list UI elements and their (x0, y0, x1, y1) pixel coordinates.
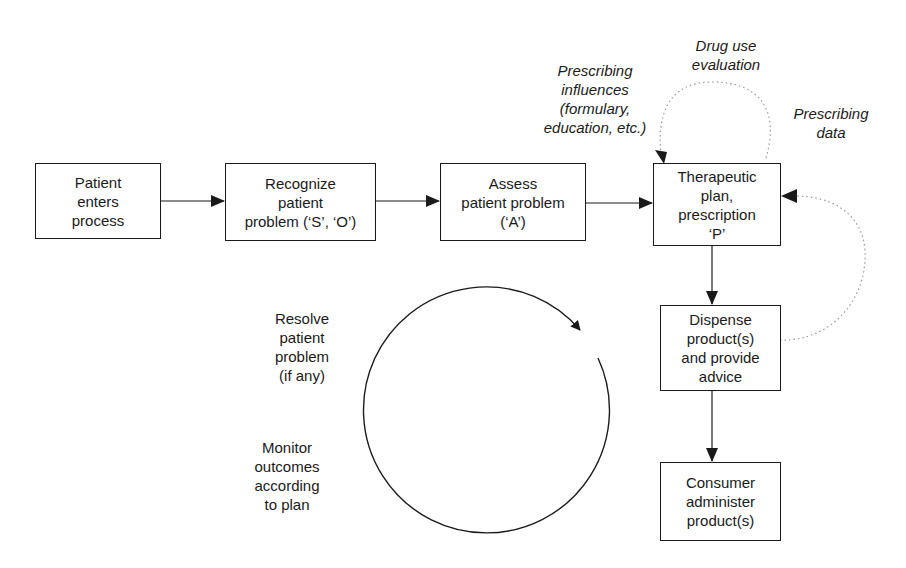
label-drug-use-evaluation: Drug use evaluation (676, 36, 776, 74)
label-prescribing-data: Prescribing data (776, 104, 886, 142)
label-resolve-problem: Resolve patient problem (if any) (262, 309, 342, 385)
loop-prescribing-data (780, 196, 865, 340)
box-recognize-problem: Recognize patient problem (‘S’, ‘O’) (225, 163, 376, 241)
box-assess-problem: Assess patient problem (‘A’) (440, 163, 586, 241)
box-dispense-products: Dispense product(s) and provide advice (660, 305, 781, 391)
box-consumer-administer: Consumer administer product(s) (660, 462, 781, 541)
loop-drug-use-evaluation (660, 82, 770, 162)
box-patient-enters: Patient enters process (35, 163, 161, 239)
box-therapeutic-plan: Therapeutic plan, prescription ‘P’ (653, 163, 781, 246)
label-prescribing-influences: Prescribing influences (formulary, educa… (530, 61, 660, 137)
arrowhead-drug-use (655, 150, 667, 164)
arrowhead-prescribing-data (781, 189, 797, 203)
label-monitor-outcomes: Monitor outcomes according to plan (244, 438, 330, 514)
cycle-circle (363, 287, 609, 533)
